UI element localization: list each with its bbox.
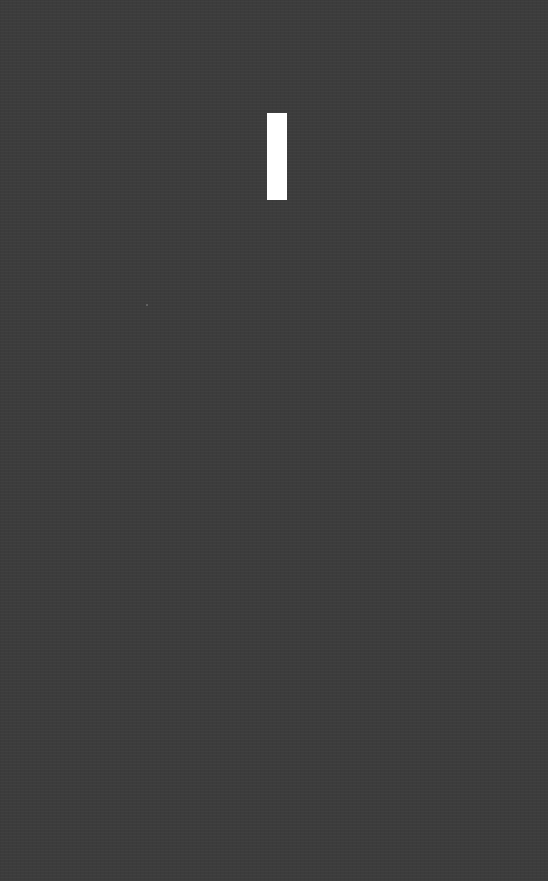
noise-speck [146, 304, 148, 306]
vertical-bar-icon [267, 113, 287, 200]
blank-screen [0, 0, 548, 881]
